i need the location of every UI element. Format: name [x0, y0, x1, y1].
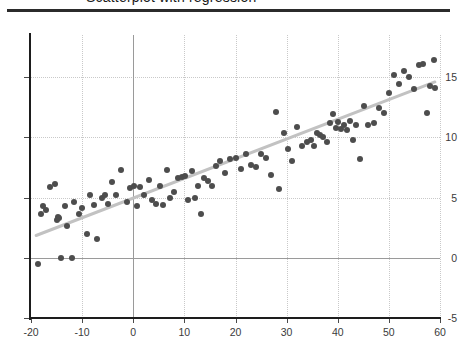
scatter-point	[350, 137, 356, 143]
scatter-point	[124, 199, 130, 205]
scatter-point	[406, 74, 412, 80]
scatter-point	[357, 156, 363, 162]
scatter-point	[327, 120, 333, 126]
x-axis-tick-label: 40	[318, 326, 358, 338]
scatter-point	[371, 120, 377, 126]
x-axis-tick-label: 0	[113, 326, 153, 338]
scatter-point	[185, 197, 191, 203]
scatter-point	[324, 139, 330, 145]
scatter-point	[58, 255, 64, 261]
scatter-point	[52, 181, 58, 187]
scatter-point	[171, 189, 177, 195]
scatter-point	[335, 119, 341, 125]
y-axis-tick-label: 0	[435, 253, 457, 263]
scatter-point	[294, 124, 300, 130]
scatter-point	[146, 177, 152, 183]
x-axis-tick-label: 10	[164, 326, 204, 338]
scatter-point	[347, 118, 353, 124]
scatter-point	[268, 172, 274, 178]
scatter-point	[91, 202, 97, 208]
scatter-point	[420, 61, 426, 67]
scatter-point	[424, 110, 430, 116]
scatter-point	[167, 195, 173, 201]
scatter-point	[153, 201, 159, 207]
scatter-point	[105, 201, 111, 207]
scatter-point	[102, 192, 108, 198]
clipped-title-region: Scatterplot with regression	[0, 0, 457, 8]
y-axis-tick-label: 5	[435, 193, 457, 203]
scatter-point	[64, 223, 70, 229]
scatter-point	[289, 158, 295, 164]
scatter-point	[198, 211, 204, 217]
scatter-point	[62, 203, 68, 209]
scatter-point	[401, 68, 407, 74]
scatter-point	[109, 179, 115, 185]
scatter-point	[134, 203, 140, 209]
scatter-point	[213, 163, 219, 169]
scatter-point	[381, 110, 387, 116]
scatter-point	[195, 183, 201, 189]
scatter-point	[157, 183, 163, 189]
scatter-point	[311, 143, 317, 149]
reference-line-y-zero	[31, 258, 440, 259]
x-axis-tick-label: -10	[62, 326, 102, 338]
x-axis-tick-label: 30	[267, 326, 307, 338]
gridline-horizontal	[31, 137, 440, 138]
scatter-point	[69, 255, 75, 261]
scatter-point	[353, 122, 359, 128]
scatter-point	[84, 231, 90, 237]
scatter-point	[391, 72, 397, 78]
scatter-point	[94, 236, 100, 242]
gridline-horizontal	[31, 77, 440, 78]
scatter-point	[238, 166, 244, 172]
scatter-point	[189, 168, 195, 174]
scatter-point	[330, 111, 336, 117]
scatter-point	[56, 215, 62, 221]
scatter-point	[217, 158, 223, 164]
gridline-horizontal	[31, 198, 440, 199]
scatter-point	[209, 183, 215, 189]
scatter-point	[222, 170, 228, 176]
x-axis-tick-label: -20	[11, 326, 51, 338]
scatter-point	[192, 195, 198, 201]
scatter-point	[308, 137, 314, 143]
scatter-point	[118, 167, 124, 173]
scatter-point	[71, 199, 77, 205]
y-axis-tick-label: 10	[435, 132, 457, 142]
x-axis-tick-label: 50	[369, 326, 409, 338]
x-axis-line	[31, 317, 441, 319]
scatter-point	[432, 85, 438, 91]
scatter-point	[137, 184, 143, 190]
x-axis-tick-label: 20	[216, 326, 256, 338]
scatter-point	[396, 81, 402, 87]
reference-line-x-zero	[133, 35, 134, 318]
scatter-point	[431, 57, 437, 63]
x-axis-tick-label: 60	[420, 326, 460, 338]
y-axis-tick-label: -5	[435, 313, 457, 323]
scatter-point	[113, 192, 119, 198]
scatter-point	[361, 103, 367, 109]
scatter-point	[281, 130, 287, 136]
scatter-point	[160, 202, 166, 208]
scatter-point	[276, 186, 282, 192]
header-divider	[7, 9, 450, 12]
scatter-point	[233, 155, 239, 161]
scatter-point	[43, 207, 49, 213]
scatter-point	[386, 90, 392, 96]
scatter-point	[253, 164, 259, 170]
scatter-point	[35, 261, 41, 267]
scatter-point	[411, 86, 417, 92]
scatter-point	[263, 155, 269, 161]
scatter-point	[79, 205, 85, 211]
scatter-point	[131, 183, 137, 189]
scatter-point	[273, 109, 279, 115]
scatter-point	[243, 151, 249, 157]
y-axis-line	[29, 33, 31, 320]
page-title: Scatterplot with regression	[86, 0, 256, 5]
scatter-point	[285, 146, 291, 152]
scatter-point	[164, 167, 170, 173]
y-axis-tick-label: 15	[435, 72, 457, 82]
scatter-point	[182, 173, 188, 179]
scatter-point	[344, 127, 350, 133]
